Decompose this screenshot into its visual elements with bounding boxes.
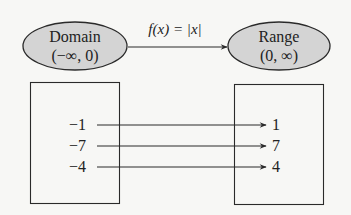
output-value-0: 1: [272, 116, 302, 134]
input-value-1: −7: [56, 137, 86, 155]
input-value-2: −4: [56, 158, 86, 176]
function-label-prefix: f(x) =: [148, 21, 186, 37]
output-value-1: 7: [272, 137, 302, 155]
input-value-0: −1: [56, 116, 86, 134]
domain-interval: (−∞, 0): [25, 46, 125, 65]
function-label-body: |x|: [187, 21, 202, 37]
function-label: f(x) = |x|: [125, 21, 225, 38]
domain-title: Domain: [25, 27, 125, 46]
range-label: Range (0, ∞): [229, 27, 329, 65]
domain-label: Domain (−∞, 0): [25, 27, 125, 65]
range-interval: (0, ∞): [229, 46, 329, 65]
range-title: Range: [229, 27, 329, 46]
output-value-2: 4: [272, 158, 302, 176]
